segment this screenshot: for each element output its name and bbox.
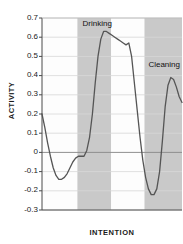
- y-tick-label: 0.7: [10, 14, 38, 22]
- y-axis-title: ACTIVITY: [7, 71, 16, 131]
- x-axis-title: INTENTION: [42, 228, 182, 237]
- annotation-drinking: Drinking: [83, 19, 112, 28]
- annotation-cleaning: Cleaning: [148, 60, 180, 69]
- y-tick-label: -0.1: [10, 167, 38, 175]
- y-tick-label: 0.5: [10, 52, 38, 60]
- y-tick-label: 0.6: [10, 33, 38, 41]
- y-tick-label: -0.2: [10, 186, 38, 194]
- y-tick-label: -0.3: [10, 206, 38, 214]
- y-tick-label: 0: [10, 148, 38, 156]
